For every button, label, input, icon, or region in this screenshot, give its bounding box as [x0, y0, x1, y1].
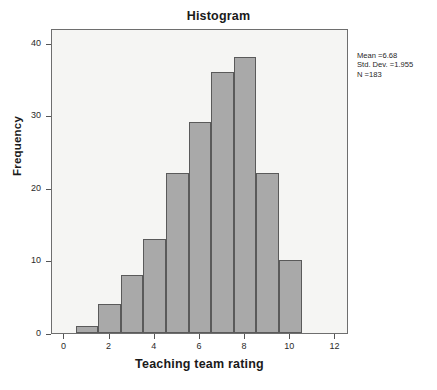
histogram-bar	[143, 239, 166, 333]
x-axis-tick	[334, 334, 335, 339]
y-axis-tick	[46, 116, 51, 117]
y-axis-tick-label: 0	[15, 328, 41, 338]
x-axis-tick	[154, 334, 155, 339]
std-dev-label: Std. Dev. =1.955	[357, 60, 413, 69]
y-axis-tick	[46, 334, 51, 335]
x-axis-tick	[199, 334, 200, 339]
y-axis-tick	[46, 44, 51, 45]
x-axis-tick	[244, 334, 245, 339]
y-axis-tick-label: 40	[15, 38, 41, 48]
histogram-bar	[234, 57, 257, 333]
x-axis-tick-label: 0	[51, 341, 75, 351]
histogram-bar	[256, 173, 279, 333]
x-axis-tick	[289, 334, 290, 339]
histogram-bar	[121, 275, 144, 333]
bars-container	[52, 30, 347, 333]
histogram-bar	[189, 122, 212, 333]
histogram-figure: Histogram 010203040 Frequency 024681012 …	[0, 0, 437, 390]
plot-area	[51, 29, 348, 334]
sample-size-label: N =183	[357, 70, 413, 79]
histogram-bar	[166, 173, 189, 333]
y-axis-tick-label: 10	[15, 255, 41, 265]
y-axis-tick	[46, 189, 51, 190]
y-axis-tick	[46, 261, 51, 262]
x-axis-tick-label: 2	[97, 341, 121, 351]
x-axis-tick	[109, 334, 110, 339]
x-axis-title: Teaching team rating	[51, 357, 348, 371]
histogram-bar	[98, 304, 121, 333]
chart-title: Histogram	[0, 9, 437, 23]
x-axis-tick-label: 10	[277, 341, 301, 351]
x-axis-tick	[63, 334, 64, 339]
x-axis-tick-label: 8	[232, 341, 256, 351]
y-axis-title: Frequency	[11, 86, 23, 206]
x-axis-tick-label: 12	[322, 341, 346, 351]
mean-label: Mean =6.68	[357, 51, 413, 60]
histogram-bar	[279, 260, 302, 333]
statistics-annotation: Mean =6.68 Std. Dev. =1.955 N =183	[357, 51, 413, 79]
x-axis-tick-label: 6	[187, 341, 211, 351]
histogram-bar	[76, 326, 99, 333]
histogram-bar	[211, 72, 234, 333]
x-axis-tick-label: 4	[142, 341, 166, 351]
